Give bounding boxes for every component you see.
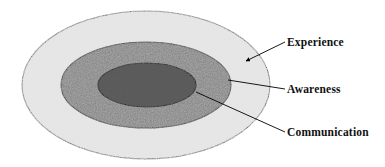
ring-communication[interactable] bbox=[98, 63, 196, 107]
label-communication: Communication bbox=[287, 127, 369, 139]
diagram-canvas: Experience Awareness Communication bbox=[0, 0, 385, 167]
ellipse-communication[interactable] bbox=[98, 63, 196, 107]
label-experience: Experience bbox=[287, 37, 344, 49]
label-awareness: Awareness bbox=[287, 84, 341, 96]
